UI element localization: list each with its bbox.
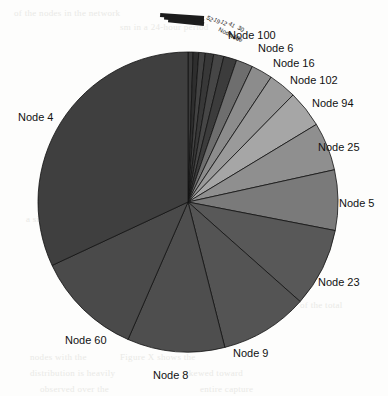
slice-label: Node 8	[153, 370, 188, 381]
pie-chart-figure: of the nodes in the networksm in a 24-ho…	[0, 0, 388, 396]
slice-label: Node 94	[312, 98, 354, 109]
slice-label: Node 23	[318, 277, 360, 288]
slice-label: Node 102	[290, 75, 338, 86]
slice-label: Node 5	[339, 198, 374, 209]
slice-label: Node 100	[228, 30, 276, 41]
slice-label: Node 60	[65, 335, 107, 346]
slice-label: Node 16	[273, 58, 315, 69]
slice-label: Node 9	[233, 348, 268, 359]
slice-label: Node 25	[318, 142, 360, 153]
pie-chart-canvas	[0, 0, 388, 396]
slice-label: Node 6	[258, 43, 293, 54]
slice-label: Node 4	[18, 112, 53, 123]
pie-slice-group	[38, 52, 338, 352]
